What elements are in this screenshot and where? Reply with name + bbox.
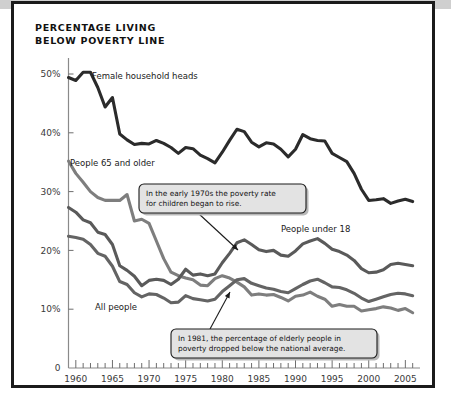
annotation-text-line: In the early 1970s the poverty rate (146, 189, 276, 198)
annotation-text-line: for children began to rise. (146, 199, 242, 208)
y-axis-tick-label: 50% (40, 69, 60, 79)
x-axis-tick-label: 1985 (247, 374, 270, 384)
series-label: All people (95, 302, 137, 312)
series-label: People under 18 (281, 224, 350, 234)
x-axis-tick-label: 2000 (357, 374, 380, 384)
x-axis-tick-label: 1960 (64, 374, 87, 384)
series-line (69, 207, 413, 285)
annotation-leader-line (198, 213, 238, 250)
annotation-text-line: poverty dropped below the national avera… (178, 344, 345, 353)
x-axis-tick-label: 1965 (101, 374, 124, 384)
chart-page: PERCENTAGE LIVING BELOW POVERTY LINE 010… (0, 0, 451, 414)
y-axis-tick-label: 20% (40, 246, 60, 256)
x-axis-tick-label: 1970 (138, 374, 161, 384)
y-axis-tick-label: 40% (40, 128, 60, 138)
chart-annotation: In 1981, the percentage of elderly peopl… (171, 292, 380, 361)
y-axis-tick-label: 0 (55, 363, 61, 373)
chart-annotation: In the early 1970s the poverty ratefor c… (139, 184, 309, 250)
annotation-text-line: In 1981, the percentage of elderly peopl… (178, 334, 341, 343)
y-axis-tick-label: 10% (40, 304, 60, 314)
series-label: People 65 and older (70, 158, 155, 168)
y-axis-tick-label: 30% (40, 187, 60, 197)
x-axis-tick-label: 2005 (394, 374, 417, 384)
x-axis-tick-label: 1980 (211, 374, 234, 384)
series-label: Female household heads (92, 71, 198, 81)
x-axis-tick-label: 1990 (284, 374, 307, 384)
x-axis-tick-label: 1975 (174, 374, 197, 384)
annotation-leader-line (210, 292, 230, 329)
poverty-line-chart: 010%20%30%40%50%196019651970197519801985… (0, 0, 451, 414)
x-axis-tick-label: 1995 (321, 374, 344, 384)
